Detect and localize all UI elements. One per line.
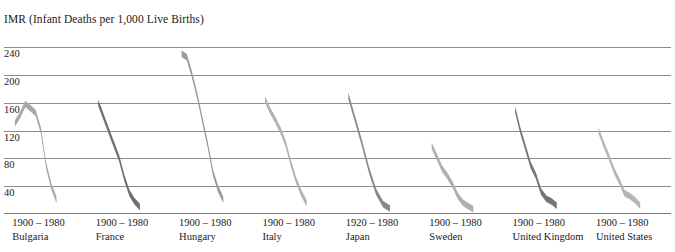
- x-label-range: 1900 – 1980: [96, 216, 149, 230]
- country-band-sweden: [432, 143, 474, 213]
- x-label-italy: 1900 – 1980Italy: [263, 216, 316, 244]
- x-label-france: 1900 – 1980France: [96, 216, 149, 244]
- plot-area: [4, 33, 671, 214]
- x-label-country: Hungary: [179, 230, 232, 244]
- y-tick-label-240: 240: [4, 49, 20, 60]
- country-band-japan: [348, 92, 390, 211]
- country-band-united-states: [599, 127, 641, 209]
- x-label-country: Sweden: [429, 230, 482, 244]
- y-tick-label-40: 40: [4, 188, 15, 199]
- x-label-country: United Kingdom: [513, 230, 584, 244]
- y-tick-label-80: 80: [4, 160, 15, 171]
- x-label-range: 1900 – 1980: [263, 216, 316, 230]
- imr-small-multiples-chart: IMR (Infant Deaths per 1,000 Live Births…: [0, 0, 675, 252]
- country-band-bulgaria: [15, 101, 57, 204]
- x-label-range: 1900 – 1980: [596, 216, 652, 230]
- x-label-japan: 1920 – 1980Japan: [346, 216, 399, 244]
- x-label-united-states: 1900 – 1980United States: [596, 216, 652, 244]
- country-band-france: [98, 99, 140, 210]
- x-label-country: Italy: [263, 230, 316, 244]
- y-tick-label-200: 200: [4, 77, 20, 88]
- country-band-united-kingdom: [515, 106, 557, 209]
- x-label-united-kingdom: 1900 – 1980United Kingdom: [513, 216, 584, 244]
- x-label-bulgaria: 1900 – 1980Bulgaria: [12, 216, 65, 244]
- x-label-country: United States: [596, 230, 652, 244]
- country-band-layer: [4, 33, 671, 214]
- y-tick-label-160: 160: [4, 105, 20, 116]
- y-tick-label-120: 120: [4, 133, 20, 144]
- x-axis-label-row: 1900 – 1980Bulgaria1900 – 1980France1900…: [4, 216, 671, 252]
- x-label-range: 1920 – 1980: [346, 216, 399, 230]
- x-label-range: 1900 – 1980: [513, 216, 584, 230]
- x-label-country: France: [96, 230, 149, 244]
- country-band-hungary: [182, 51, 224, 204]
- x-label-range: 1900 – 1980: [179, 216, 232, 230]
- chart-axis-title: IMR (Infant Deaths per 1,000 Live Births…: [4, 13, 204, 25]
- x-label-country: Bulgaria: [12, 230, 65, 244]
- country-band-italy: [265, 96, 307, 207]
- x-label-range: 1900 – 1980: [12, 216, 65, 230]
- x-label-country: Japan: [346, 230, 399, 244]
- x-label-hungary: 1900 – 1980Hungary: [179, 216, 232, 244]
- x-label-sweden: 1900 – 1980Sweden: [429, 216, 482, 244]
- x-label-range: 1900 – 1980: [429, 216, 482, 230]
